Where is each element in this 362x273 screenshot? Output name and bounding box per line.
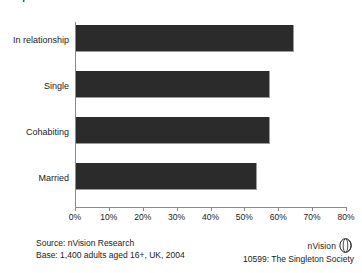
x-axis-tick — [109, 207, 110, 211]
bar-in-relationship — [76, 25, 294, 52]
footer-brand-block: nVision 10599: The Singleton Society — [243, 238, 354, 264]
x-axis-tick-label: 10% — [92, 212, 126, 222]
x-axis-tick — [177, 207, 178, 211]
nvision-logo-text: nVision — [308, 241, 336, 251]
footer-source-block: Source: nVision Research Base: 1,400 adu… — [36, 238, 185, 261]
category-label: Married — [0, 173, 69, 183]
category-label: In relationship — [0, 35, 69, 45]
x-axis-tick-label: 80% — [329, 212, 362, 222]
x-axis-tick-label: 50% — [227, 212, 261, 222]
report-id: 10599: The Singleton Society — [243, 254, 354, 264]
x-axis-tick — [143, 207, 144, 211]
category-label: Single — [0, 81, 69, 91]
bar-single — [76, 71, 270, 98]
bar-row: Single — [0, 68, 362, 114]
x-axis-tick — [75, 207, 76, 211]
x-axis-tick — [346, 207, 347, 211]
source-line: Source: nVision Research — [36, 238, 185, 250]
x-axis-tick-label: 70% — [295, 212, 329, 222]
x-axis-tick — [312, 207, 313, 211]
x-axis-tick-label: 60% — [261, 212, 295, 222]
nvision-logo: nVision — [243, 238, 354, 253]
x-axis-tick-label: 20% — [126, 212, 160, 222]
bar-row: Married — [0, 160, 362, 206]
bar-chart-plot-area: In relationship Single Cohabiting Marrie… — [0, 0, 362, 220]
x-axis-tick-label: 40% — [194, 212, 228, 222]
bar-row: Cohabiting — [0, 114, 362, 160]
base-line: Base: 1,400 adults aged 16+, UK, 2004 — [36, 250, 185, 262]
x-axis-tick — [211, 207, 212, 211]
x-axis-tick-label: 30% — [160, 212, 194, 222]
x-axis-tick — [278, 207, 279, 211]
bar-married — [76, 163, 257, 190]
x-axis-tick — [244, 207, 245, 211]
category-label: Cohabiting — [0, 127, 69, 137]
bar-row: In relationship — [0, 22, 362, 68]
x-axis-tick-label: 0% — [58, 212, 92, 222]
bar-cohabiting — [76, 117, 270, 144]
sphere-icon — [337, 238, 354, 253]
